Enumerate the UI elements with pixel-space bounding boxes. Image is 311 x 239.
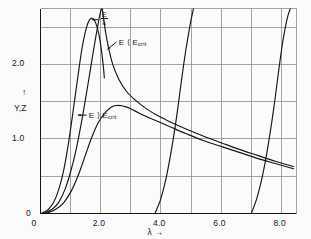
gridlines <box>41 9 297 214</box>
figure-canvas: 0 1.0 2.0 ↑ Y,Z 0 2.0 4.0 6.0 8.0 λ → E … <box>0 0 311 239</box>
y-tick-label-2: 2.0 <box>12 58 24 68</box>
fraction-e-over-lambda: E λ <box>101 11 108 27</box>
annotation-e-less-than-ecrit: E ⟨ Ecrit <box>119 38 147 47</box>
annotation-e-greater-than-ecrit-subscript: crit <box>108 114 117 120</box>
x-axis-arrow: → <box>154 227 163 237</box>
annotation-e-greater-than-ecrit-text: E ⟩ E <box>89 111 108 120</box>
annotation-e-less-than-ecrit-subscript: crit <box>138 41 147 47</box>
data-curves <box>41 9 293 214</box>
fraction-denominator: λ <box>101 18 108 27</box>
y-tick-label-1: 1.0 <box>12 133 24 143</box>
y-tick-label-0: 0 <box>26 208 31 218</box>
plot-frame <box>41 9 297 214</box>
chart-plot-area <box>0 0 311 239</box>
annotation-e-over-lambda: E λ <box>101 11 108 27</box>
x-tick-label-1: 2.0 <box>93 218 105 228</box>
x-axis-label-text: λ <box>147 227 151 237</box>
annotation-e-less-than-ecrit-text: E ⟨ E <box>119 38 138 47</box>
x-axis-label: λ → <box>147 227 163 237</box>
fraction-numerator: E <box>101 11 108 19</box>
x-tick-label-0: 0 <box>32 218 37 228</box>
x-tick-label-3: 6.0 <box>213 218 225 228</box>
x-tick-label-4: 8.0 <box>273 218 285 228</box>
y-axis-label: Y,Z <box>14 103 27 113</box>
annotation-e-greater-than-ecrit: E ⟩ Ecrit <box>89 111 117 120</box>
y-axis-arrow: ↑ <box>22 87 26 97</box>
